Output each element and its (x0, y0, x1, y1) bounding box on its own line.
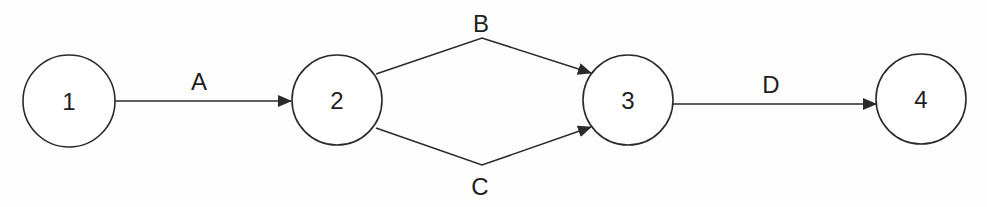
node-4: 4 (876, 54, 966, 144)
arrow-icon (376, 38, 591, 74)
edge-label: B (473, 10, 489, 37)
network-diagram: ABCD 1234 (0, 0, 987, 207)
edge-c: C (376, 127, 591, 200)
node-label: 4 (914, 86, 927, 113)
node-2: 2 (292, 55, 382, 145)
node-label: 1 (62, 88, 75, 115)
edge-b: B (376, 10, 591, 74)
arrow-icon (376, 127, 591, 165)
node-label: 2 (330, 87, 343, 114)
edge-a: A (115, 68, 291, 101)
edge-label: C (471, 173, 488, 200)
edge-label: A (191, 68, 207, 95)
node-3: 3 (583, 55, 673, 145)
edges: ABCD (115, 10, 876, 200)
diagram-canvas: ABCD 1234 (0, 0, 987, 207)
node-label: 3 (621, 87, 634, 114)
edge-label: D (762, 71, 779, 98)
edge-d: D (673, 71, 876, 104)
node-1: 1 (23, 55, 115, 147)
